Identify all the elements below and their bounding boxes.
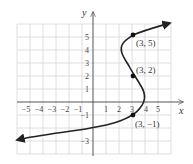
svg-text:2: 2 — [117, 105, 121, 114]
svg-text:−2: −2 — [61, 105, 70, 114]
svg-text:−1: −1 — [80, 111, 89, 120]
svg-text:5: 5 — [156, 105, 160, 114]
svg-text:4: 4 — [85, 46, 89, 55]
svg-text:3: 3 — [85, 59, 89, 68]
svg-text:−5: −5 — [22, 105, 31, 114]
svg-text:1: 1 — [85, 85, 89, 94]
svg-text:−4: −4 — [35, 105, 44, 114]
point-3-neg1 — [131, 113, 136, 118]
y-axis-label: y — [81, 7, 87, 18]
point-label-3-2: (3, 2) — [136, 65, 156, 75]
graph: x y −5 −4 −3 −2 −1 1 2 3 4 5 5 4 3 2 1 −… — [0, 0, 193, 164]
x-axis-label: x — [178, 105, 184, 116]
svg-text:−3: −3 — [80, 137, 89, 146]
svg-text:2: 2 — [85, 72, 89, 81]
point-3-2 — [131, 74, 136, 79]
svg-text:−3: −3 — [48, 105, 57, 114]
point-3-5 — [131, 33, 136, 38]
point-label-3-5: (3, 5) — [136, 38, 156, 48]
svg-text:1: 1 — [104, 105, 108, 114]
point-label-3-neg1: (3, −1) — [135, 119, 160, 129]
svg-text:5: 5 — [85, 33, 89, 42]
svg-text:4: 4 — [144, 105, 148, 114]
